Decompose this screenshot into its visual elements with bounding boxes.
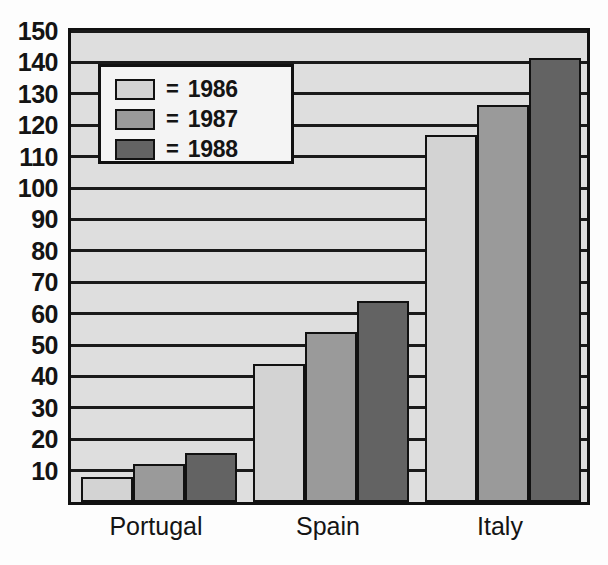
x-axis: PortugalSpainItaly: [68, 512, 590, 557]
bar-spain-1986: [253, 364, 305, 502]
bar-portugal-1987: [133, 464, 185, 502]
y-axis-tick-label: 110: [19, 142, 58, 171]
bar-spain-1987: [305, 332, 357, 502]
bar-italy-1988: [529, 58, 581, 502]
legend-equals-sign: =: [166, 106, 179, 132]
legend-swatch-1988: [115, 139, 155, 160]
y-axis-tick-label: 80: [31, 236, 58, 265]
legend-item: = 1986: [115, 75, 291, 103]
y-axis-tick-label: 120: [18, 111, 58, 140]
y-axis-tick-label: 50: [31, 331, 58, 360]
y-axis-tick-label: 100: [18, 174, 58, 203]
x-axis-label-portugal: Portugal: [109, 512, 202, 541]
y-axis-tick-label: 40: [31, 362, 58, 391]
x-axis-label-spain: Spain: [296, 512, 360, 541]
legend-swatch-1986: [115, 79, 155, 100]
x-axis-label-italy: Italy: [477, 512, 523, 541]
bar-italy-1986: [425, 135, 477, 502]
legend-equals-sign: =: [166, 76, 179, 102]
y-axis-tick-label: 60: [31, 299, 58, 328]
y-axis-tick-label: 150: [18, 17, 58, 46]
y-axis-tick-label: 70: [31, 268, 58, 297]
y-axis: 102030405060708090100110120130140150: [0, 0, 64, 565]
y-axis-tick-label: 130: [18, 79, 58, 108]
legend-swatch-1987: [115, 109, 155, 130]
bar-portugal-1986: [81, 477, 133, 502]
legend-item: = 1988: [115, 135, 291, 163]
y-axis-tick-label: 140: [18, 48, 58, 77]
legend-label-1987: 1987: [188, 106, 238, 133]
y-axis-tick-label: 90: [31, 205, 58, 234]
bar-spain-1988: [357, 301, 409, 502]
y-axis-tick-label: 20: [31, 425, 58, 454]
bar-italy-1987: [477, 105, 529, 502]
legend-label-1988: 1988: [188, 136, 238, 163]
gridline: [71, 30, 587, 33]
bar-portugal-1988: [185, 453, 237, 502]
y-axis-tick-label: 10: [31, 456, 58, 485]
chart-legend: = 1986 = 1987 = 1988: [98, 64, 294, 164]
legend-item: = 1987: [115, 105, 291, 133]
legend-equals-sign: =: [166, 136, 179, 162]
bar-chart: 102030405060708090100110120130140150 Por…: [0, 0, 608, 565]
y-axis-tick-label: 30: [31, 393, 58, 422]
legend-label-1986: 1986: [188, 76, 238, 103]
